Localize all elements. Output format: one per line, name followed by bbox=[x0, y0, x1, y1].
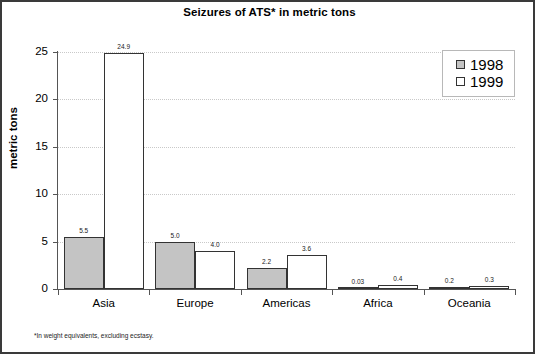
x-tick-mark bbox=[241, 290, 242, 295]
bar-value-label: 0.4 bbox=[372, 275, 424, 282]
x-tick-mark bbox=[58, 290, 59, 295]
legend-swatch-icon bbox=[456, 77, 465, 86]
x-tick-mark bbox=[149, 290, 150, 295]
chart-legend: 19981999 bbox=[442, 50, 515, 97]
legend-item-1998[interactable]: 1998 bbox=[443, 56, 514, 73]
chart-title: Seizures of ATS* in metric tons bbox=[2, 6, 535, 18]
bar-oceania-1998 bbox=[429, 287, 469, 289]
x-axis-line bbox=[57, 289, 516, 290]
legend-label: 1999 bbox=[470, 74, 503, 89]
bar-value-label: 2.2 bbox=[241, 258, 293, 265]
legend-item-1999[interactable]: 1999 bbox=[443, 73, 514, 90]
bar-americas-1999 bbox=[287, 255, 327, 289]
bar-value-label: 4.0 bbox=[189, 241, 241, 248]
x-category-label-americas: Americas bbox=[241, 297, 332, 309]
y-tick-label: 5 bbox=[2, 235, 48, 247]
bar-oceania-1999 bbox=[469, 286, 509, 289]
x-category-label-africa: Africa bbox=[332, 297, 423, 309]
bar-value-label: 24.9 bbox=[98, 43, 150, 50]
bar-asia-1998 bbox=[64, 237, 104, 289]
legend-swatch-icon bbox=[456, 60, 465, 69]
bar-value-label: 0.3 bbox=[463, 276, 515, 283]
legend-label: 1998 bbox=[470, 57, 503, 72]
x-category-label-oceania: Oceania bbox=[424, 297, 515, 309]
x-tick-mark bbox=[332, 290, 333, 295]
chart-frame: Seizures of ATS* in metric tons metric t… bbox=[0, 0, 535, 354]
bar-asia-1999 bbox=[104, 53, 144, 289]
bar-value-label: 5.5 bbox=[58, 227, 110, 234]
bar-europe-1999 bbox=[195, 251, 235, 289]
x-tick-mark bbox=[424, 290, 425, 295]
bar-africa-1999 bbox=[378, 285, 418, 289]
bar-value-label: 5.0 bbox=[149, 232, 201, 239]
chart-footnote: *In weight equivalents, excluding ecstas… bbox=[34, 332, 153, 339]
bar-value-label: 3.6 bbox=[281, 245, 333, 252]
x-category-label-asia: Asia bbox=[58, 297, 149, 309]
y-tick-label: 15 bbox=[2, 140, 48, 152]
bar-americas-1998 bbox=[247, 268, 287, 289]
x-tick-mark bbox=[515, 290, 516, 295]
x-category-label-europe: Europe bbox=[149, 297, 240, 309]
bar-africa-1998 bbox=[338, 287, 378, 289]
y-tick-label: 20 bbox=[2, 92, 48, 104]
bar-europe-1998 bbox=[155, 242, 195, 289]
y-tick-label: 10 bbox=[2, 187, 48, 199]
y-tick-label: 25 bbox=[2, 45, 48, 57]
y-tick-label: 0 bbox=[2, 282, 48, 294]
